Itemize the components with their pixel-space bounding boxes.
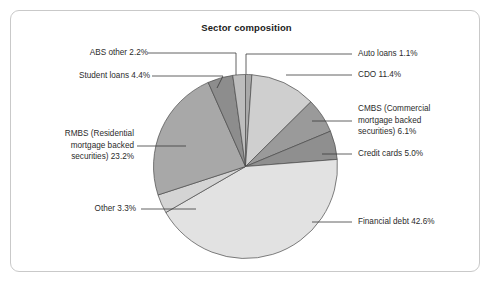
leader-line-abs-other (148, 53, 236, 75)
label-cdo: CDO 11.4% (358, 69, 488, 81)
label-rmbs-line2: mortgage backed (71, 141, 134, 150)
label-cmbs-line2: mortgage backed (358, 116, 421, 125)
label-cmbs-line3: securities) 6.1% (358, 127, 416, 136)
label-credit-cards: Credit cards 5.0% (358, 148, 488, 160)
label-cmbs-line1: CMBS (Commercial (358, 104, 430, 113)
pie-slices: Auto loans 1.1%CDO 11.4%CMBS (Commercial… (154, 74, 338, 258)
label-rmbs-line1: RMBS (Residential (65, 129, 134, 138)
label-auto-loans: Auto loans 1.1% (358, 48, 488, 60)
label-financial-debt: Financial debt 42.6% (358, 216, 488, 228)
label-other: Other 3.3% (50, 203, 136, 215)
label-rmbs: RMBS (Residential mortgage backed securi… (22, 128, 134, 163)
label-cmbs: CMBS (Commercial mortgage backed securit… (358, 103, 482, 138)
chart-figure: Sector composition Auto loans 1.1%CDO 11… (0, 0, 493, 286)
label-rmbs-line3: securities) 23.2% (71, 152, 134, 161)
leader-line-auto-loans (246, 54, 352, 74)
label-student-loans: Student loans 4.4% (22, 70, 150, 82)
label-abs-other: ABS other 2.2% (30, 47, 148, 59)
